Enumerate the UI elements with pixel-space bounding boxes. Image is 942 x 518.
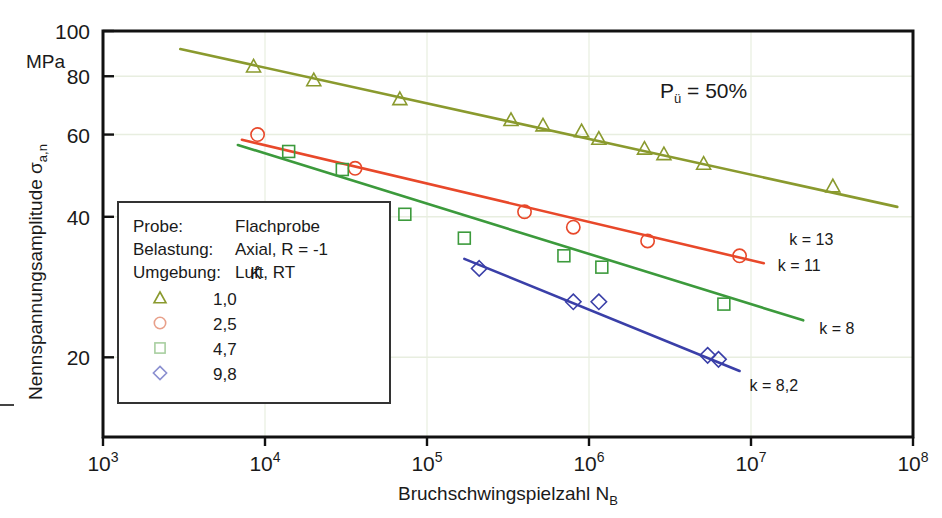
x-axis-title-main: Bruchschwingspielzahl N xyxy=(398,483,609,504)
legend-row-label: Probe: xyxy=(133,217,183,236)
k-label-triangle: k = 13 xyxy=(789,231,833,248)
pu-main: P xyxy=(660,79,674,102)
pu-subscript: ü xyxy=(674,91,681,106)
k-label-square: k = 8 xyxy=(819,320,854,337)
x-tick-exponent: 7 xyxy=(759,449,767,465)
y-axis-ticks: 10080604020 xyxy=(55,20,114,369)
data-marker-triangle xyxy=(826,179,840,192)
y-tick-label: 40 xyxy=(67,206,90,229)
x-tick-label: 107 xyxy=(735,449,766,475)
y-tick-label: 20 xyxy=(67,346,90,369)
x-axis-title: Bruchschwingspielzahl NB xyxy=(398,483,618,508)
svg-text:Nennspannungsamplitude σa,n: Nennspannungsamplitude σa,n xyxy=(25,144,50,400)
y-tick-label: 60 xyxy=(67,124,90,147)
y-axis-title: Nennspannungsamplitude σa,n xyxy=(25,144,50,400)
x-tick-label: 108 xyxy=(897,449,928,475)
x-tick-exponent: 6 xyxy=(597,449,605,465)
x-tick-mantissa: 10 xyxy=(897,452,920,475)
legend-row-label: Umgebung: xyxy=(133,263,221,282)
y-axis-title-subscript: a,n xyxy=(35,144,50,162)
legend-entry-label: 2,5 xyxy=(213,315,237,334)
y-axis-unit: MPa xyxy=(26,51,66,72)
data-marker-diamond xyxy=(591,294,606,309)
legend-row-value: Luft, RT xyxy=(235,263,295,282)
x-tick-label: 105 xyxy=(411,449,442,475)
pu-rest: = 50% xyxy=(681,79,747,102)
x-tick-mantissa: 10 xyxy=(411,452,434,475)
fit-line-triangle xyxy=(180,49,897,207)
legend-header: K xyxy=(250,264,262,283)
x-tick-mantissa: 10 xyxy=(249,452,272,475)
data-marker-square xyxy=(718,298,730,310)
legend-entry-label: 4,7 xyxy=(213,340,237,359)
x-axis-title-subscript: B xyxy=(609,493,618,508)
legend-entry-label: 1,0 xyxy=(213,290,237,309)
legend-row-label: Belastung: xyxy=(133,240,213,259)
x-tick-exponent: 8 xyxy=(921,449,929,465)
data-marker-square xyxy=(399,208,411,220)
chart-root: 103104105106107108 10080604020 k = 13k =… xyxy=(0,0,942,518)
x-tick-exponent: 4 xyxy=(273,449,281,465)
y-axis-title-symbol: σ xyxy=(25,162,46,174)
fit-line-diamond xyxy=(464,259,739,371)
x-tick-label: 106 xyxy=(573,449,604,475)
x-tick-exponent: 5 xyxy=(435,449,443,465)
data-marker-square xyxy=(558,250,570,262)
y-tick-label: 100 xyxy=(55,20,90,43)
k-slope-labels: k = 13k = 11k = 8k = 8,2 xyxy=(750,231,855,394)
x-tick-mantissa: 10 xyxy=(735,452,758,475)
x-tick-mantissa: 10 xyxy=(87,452,110,475)
k-label-circle: k = 11 xyxy=(778,257,821,274)
data-marker-square xyxy=(458,232,470,244)
x-tick-exponent: 3 xyxy=(111,449,119,465)
legend-box: Probe:FlachprobeBelastung:Axial, R = -1U… xyxy=(118,202,390,403)
y-axis-title-main: Nennspannungsamplitude xyxy=(25,174,46,400)
legend-row-value: Flachprobe xyxy=(235,217,320,236)
survival-probability-annotation: Pü = 50% xyxy=(660,79,747,106)
y-tick-label: 80 xyxy=(67,65,90,88)
x-tick-label: 104 xyxy=(249,449,280,475)
x-tick-label: 103 xyxy=(87,449,118,475)
fatigue-sn-chart: 103104105106107108 10080604020 k = 13k =… xyxy=(0,0,942,518)
data-marker-circle xyxy=(567,221,580,234)
x-tick-mantissa: 10 xyxy=(573,452,596,475)
legend-entry-label: 9,8 xyxy=(213,365,237,384)
data-marker-square xyxy=(596,261,608,273)
k-label-diamond: k = 8,2 xyxy=(750,377,799,394)
x-axis-ticks: 103104105106107108 xyxy=(87,437,928,475)
legend-row-value: Axial, R = -1 xyxy=(235,240,328,259)
